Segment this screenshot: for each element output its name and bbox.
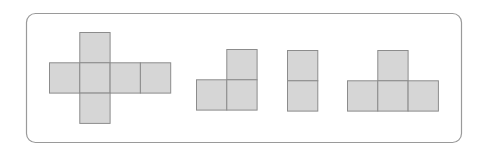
cross-net [50, 33, 171, 124]
unit-square [110, 63, 140, 93]
unit-square [408, 81, 438, 111]
unit-square [348, 81, 378, 111]
l-tromino [197, 50, 258, 111]
unit-square [227, 50, 257, 80]
unit-square [80, 33, 110, 63]
unit-square [50, 63, 80, 93]
vertical-domino [288, 51, 318, 112]
unit-square [140, 63, 170, 93]
unit-square [80, 93, 110, 123]
polyomino-figure [0, 0, 485, 156]
unit-square [378, 51, 408, 81]
t-tetromino [348, 51, 439, 112]
unit-square [288, 81, 318, 111]
unit-square [378, 81, 408, 111]
shapes-layer [50, 33, 439, 124]
unit-square [227, 80, 257, 110]
unit-square [288, 51, 318, 81]
unit-square [80, 63, 110, 93]
unit-square [197, 80, 227, 110]
